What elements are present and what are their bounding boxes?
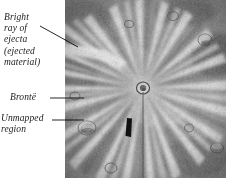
annotation-label-bronte: Brontë	[10, 92, 62, 103]
crater-photograph	[65, 0, 226, 178]
figure-container: Bright ray of ejecta (ejected material) …	[0, 0, 226, 178]
annotation-label-unmapped-region: Unmapped region	[1, 113, 63, 135]
crater-photograph-canvas	[65, 0, 226, 178]
annotation-label-bright-ray: Bright ray of ejecta (ejected material)	[4, 12, 66, 68]
